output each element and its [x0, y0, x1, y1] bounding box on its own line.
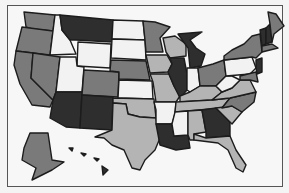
state-ma	[262, 44, 278, 52]
state-nd	[112, 20, 145, 40]
state-ak	[22, 133, 64, 180]
state-fl	[194, 134, 246, 172]
state-az	[50, 92, 82, 128]
state-hi-3	[94, 158, 99, 161]
state-ms	[172, 111, 188, 136]
state-mt	[60, 15, 113, 42]
state-nj	[256, 58, 262, 74]
state-ks	[118, 80, 153, 99]
state-wy	[77, 42, 111, 68]
state-nm	[80, 95, 113, 130]
state-hi-4	[102, 166, 108, 175]
state-co	[82, 70, 119, 97]
state-ny	[224, 34, 262, 60]
state-or	[16, 27, 53, 55]
state-hi-1	[69, 148, 73, 151]
us-map	[0, 0, 289, 193]
state-hi-2	[81, 153, 86, 156]
state-sd	[111, 39, 146, 60]
